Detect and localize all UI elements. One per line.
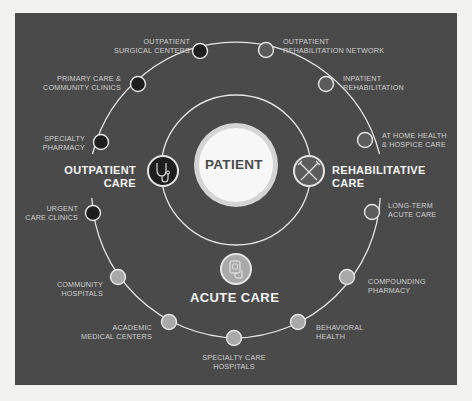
label-line2: REHABILITATION NETWORK (283, 46, 384, 55)
label-inpatient-rehabilitation: INPATIENT REHABILITATION (343, 74, 404, 92)
label-academic-medical-centers: ACADEMIC MEDICAL CENTERS (81, 323, 152, 341)
label-line1: BEHAVIORAL (316, 323, 363, 332)
label-long-term-acute-care: LONG-TERM ACUTE CARE (388, 201, 436, 219)
label-line2: COMMUNITY CLINICS (43, 83, 121, 92)
label-line1: SPECIALTY CARE (194, 353, 274, 362)
stethoscope-icon[interactable] (148, 156, 178, 186)
node-long-term-acute-care[interactable] (365, 205, 380, 220)
node-urgent-care-clinics[interactable] (86, 206, 101, 221)
label-line1: SPECIALTY (43, 134, 85, 143)
label-outpatient-rehabilitation-network: OUTPATIENT REHABILITATION NETWORK (283, 37, 384, 55)
label-line2: PHARMACY (43, 143, 85, 152)
label-line2: ACUTE CARE (388, 210, 436, 219)
label-urgent-care-clinics: URGENT CARE CLINICS (25, 204, 78, 222)
label-at-home-health-hospice-care: AT HOME HEALTH & HOSPICE CARE (382, 131, 447, 149)
label-line1: LONG-TERM (388, 201, 436, 210)
category-outpatient-care: OUTPATIENT CARE (64, 164, 136, 190)
node-academic-medical-centers[interactable] (162, 315, 177, 330)
label-outpatient-surgical-centers: OUTPATIENT SURGICAL CENTERS (114, 37, 190, 55)
label-line2: MEDICAL CENTERS (81, 332, 152, 341)
label-line1: COMPOUNDING (368, 277, 426, 286)
label-behavioral-health: BEHAVIORAL HEALTH (316, 323, 363, 341)
iv-bag-icon[interactable] (221, 254, 251, 284)
label-line2: PHARMACY (368, 286, 426, 295)
category-rehabilitative-line1: REHABILITATIVE (332, 164, 426, 177)
label-line1: OUTPATIENT (283, 37, 384, 46)
label-line2: HOSPITALS (57, 289, 103, 298)
label-specialty-care-hospitals: SPECIALTY CARE HOSPITALS (194, 353, 274, 371)
label-line2: REHABILITATION (343, 83, 404, 92)
node-specialty-pharmacy[interactable] (94, 135, 109, 150)
node-inpatient-rehabilitation[interactable] (319, 77, 334, 92)
label-line2: HEALTH (316, 332, 363, 341)
label-line1: OUTPATIENT (114, 37, 190, 46)
node-behavioral-health[interactable] (291, 315, 306, 330)
patient-label: PATIENT (205, 157, 263, 172)
label-specialty-pharmacy: SPECIALTY PHARMACY (43, 134, 85, 152)
category-acute-care: ACUTE CARE (190, 290, 279, 305)
label-line2: CARE CLINICS (25, 213, 78, 222)
node-outpatient-rehabilitation-network[interactable] (259, 43, 274, 58)
category-outpatient-line1: OUTPATIENT (64, 164, 136, 177)
label-line1: URGENT (25, 204, 78, 213)
label-line1: INPATIENT (343, 74, 404, 83)
category-rehabilitative-line2: CARE (332, 177, 426, 190)
node-specialty-care-hospitals[interactable] (227, 331, 242, 346)
node-primary-care-community-clinics[interactable] (131, 77, 146, 92)
label-line1: PRIMARY CARE & (43, 74, 121, 83)
crutches-icon[interactable] (294, 156, 324, 186)
label-compounding-pharmacy: COMPOUNDING PHARMACY (368, 277, 426, 295)
node-community-hospitals[interactable] (111, 270, 126, 285)
label-primary-care-community-clinics: PRIMARY CARE & COMMUNITY CLINICS (43, 74, 121, 92)
label-community-hospitals: COMMUNITY HOSPITALS (57, 280, 103, 298)
label-line1: AT HOME HEALTH (382, 131, 447, 140)
node-compounding-pharmacy[interactable] (340, 270, 355, 285)
label-line2: & HOSPICE CARE (382, 140, 447, 149)
category-rehabilitative-care: REHABILITATIVE CARE (332, 164, 426, 190)
label-line1: COMMUNITY (57, 280, 103, 289)
node-outpatient-surgical-centers[interactable] (193, 44, 208, 59)
category-outpatient-line2: CARE (64, 177, 136, 190)
label-line2: SURGICAL CENTERS (114, 46, 190, 55)
rehabilitative-nodes (259, 43, 380, 220)
label-line1: ACADEMIC (81, 323, 152, 332)
outpatient-nodes (86, 44, 208, 221)
label-line2: HOSPITALS (194, 362, 274, 371)
node-at-home-health-hospice[interactable] (358, 133, 373, 148)
